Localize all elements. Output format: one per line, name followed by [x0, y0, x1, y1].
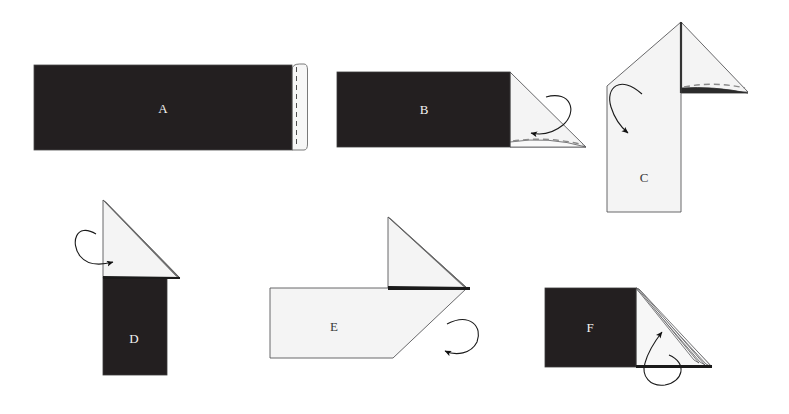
step-b-label: B	[420, 102, 429, 117]
step-c-label: C	[640, 170, 649, 185]
step-a-label: A	[158, 101, 168, 116]
step-f-label: F	[586, 320, 593, 335]
step-d-label: D	[129, 331, 138, 346]
step-e-label: E	[330, 319, 338, 334]
step-a-flap	[292, 64, 308, 150]
step-a: A	[34, 64, 308, 150]
step-d-body	[103, 278, 167, 375]
folding-instruction-figure: A B C D E	[0, 0, 789, 414]
step-f-base-edge	[636, 365, 712, 368]
